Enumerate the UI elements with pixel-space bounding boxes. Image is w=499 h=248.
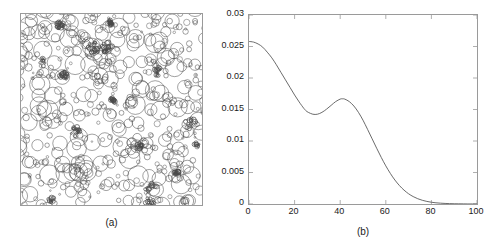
panel-b-caption: (b) [238, 226, 488, 237]
x-tick-label-3: 60 [370, 206, 400, 216]
y-tick-label-3: 0.015 [212, 103, 244, 113]
y-tick-label-6: 0.03 [212, 8, 244, 18]
two-panel-figure: (a) 00.0050.010.0150.020.0250.03 0204060… [0, 0, 499, 248]
circle-field-plot-area [20, 13, 203, 206]
y-tick-label-1: 0.005 [212, 166, 244, 176]
panel-a: (a) [0, 0, 230, 248]
x-tick-label-2: 40 [324, 206, 354, 216]
line-plot-area [248, 14, 478, 205]
x-tick-label-0: 0 [233, 206, 263, 216]
panel-a-caption: (a) [0, 217, 223, 228]
x-tick-label-5: 100 [461, 206, 491, 216]
x-tick-label-4: 80 [415, 206, 445, 216]
panel-b: 00.0050.010.0150.020.0250.03 02040608010… [230, 0, 499, 248]
circle-field-svg [21, 14, 202, 205]
x-tick-label-1: 20 [279, 206, 309, 216]
y-tick-label-5: 0.025 [212, 40, 244, 50]
y-tick-label-4: 0.02 [212, 71, 244, 81]
curve-svg [249, 15, 477, 204]
y-tick-label-2: 0.01 [212, 134, 244, 144]
